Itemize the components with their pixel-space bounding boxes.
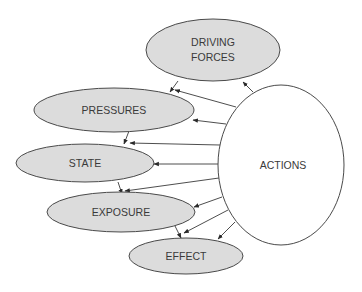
edge-actions-to-state-top: [130, 143, 220, 145]
effect-label: EFFECT: [166, 250, 207, 262]
edge-pressures-to-state: [124, 131, 129, 144]
node-pressures: PRESSURES: [34, 88, 194, 132]
exposure-label: EXPOSURE: [92, 206, 150, 218]
state-label: STATE: [69, 157, 101, 169]
dpseea-diagram: DRIVING FORCES PRESSURES STATE EXPOSURE …: [0, 0, 362, 292]
driving-forces-label-line1: DRIVING: [191, 36, 235, 48]
node-effect: EFFECT: [129, 238, 243, 274]
pressures-label: PRESSURES: [82, 104, 147, 116]
edge-actions-to-exposure-right: [194, 197, 222, 207]
edge-actions-to-pressures-right: [193, 120, 226, 124]
edge-actions-to-driving: [243, 82, 253, 92]
node-state: STATE: [16, 144, 154, 182]
edge-actions-to-effect-right: [218, 222, 235, 239]
driving-forces-ellipse: [146, 19, 280, 81]
node-driving-forces: DRIVING FORCES: [146, 19, 280, 81]
edge-actions-to-exposure-top: [125, 178, 219, 191]
driving-forces-label-line2: FORCES: [191, 51, 235, 63]
edge-exposure-to-effect: [175, 226, 181, 238]
actions-label: ACTIONS: [260, 159, 307, 171]
node-actions: ACTIONS: [218, 85, 344, 245]
node-exposure: EXPOSURE: [47, 192, 195, 232]
